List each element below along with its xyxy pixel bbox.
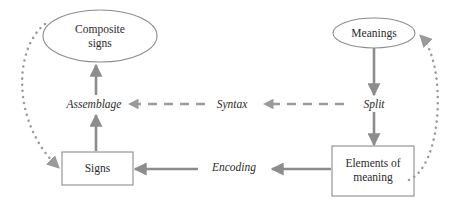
diagram-canvas	[0, 0, 459, 205]
signs-box	[62, 152, 133, 185]
meanings-ellipse	[333, 18, 415, 48]
signs-meanings-cycle-diagram: Composite signs Meanings Signs Elements …	[0, 0, 459, 205]
elements-of-meaning-box	[332, 146, 414, 196]
composite-signs-ellipse	[43, 10, 157, 62]
